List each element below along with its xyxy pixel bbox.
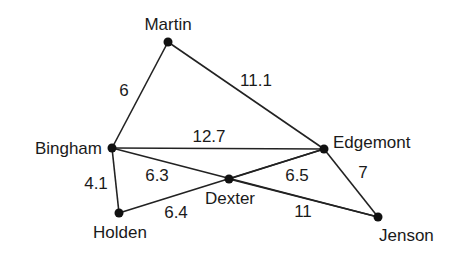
edge-edgemont-jenson bbox=[324, 149, 378, 217]
edge-dexter-edgemont bbox=[229, 149, 324, 179]
node-edgemont bbox=[320, 145, 329, 154]
node-label-holden: Holden bbox=[93, 223, 147, 242]
edge-weight-label: 11.1 bbox=[240, 71, 272, 90]
node-dexter bbox=[225, 175, 234, 184]
edge-weight-label: 12.7 bbox=[192, 127, 225, 146]
node-label-bingham: Bingham bbox=[35, 139, 102, 158]
node-martin bbox=[164, 38, 173, 47]
weighted-graph-diagram: 611.112.76.34.16.47116.5 MartinBinghamEd… bbox=[0, 0, 467, 257]
node-labels-group: MartinBinghamEdgemontDexterHoldenJenson bbox=[35, 15, 434, 245]
edge-weight-label: 6.4 bbox=[164, 203, 188, 222]
node-label-dexter: Dexter bbox=[205, 189, 255, 208]
edge-weight-label: 4.1 bbox=[84, 174, 108, 193]
node-bingham bbox=[108, 144, 117, 153]
node-jenson bbox=[374, 213, 383, 222]
edge-bingham-edgemont bbox=[112, 148, 324, 149]
node-label-jenson: Jenson bbox=[379, 226, 434, 245]
edge-weight-label: 6.5 bbox=[285, 166, 309, 185]
edge-weight-label: 7 bbox=[358, 163, 367, 182]
node-label-edgemont: Edgemont bbox=[333, 133, 411, 152]
node-holden bbox=[115, 209, 124, 218]
edge-bingham-holden bbox=[112, 148, 119, 213]
edge-weight-label: 6 bbox=[119, 81, 128, 100]
edge-weight-label: 6.3 bbox=[145, 166, 169, 185]
node-label-martin: Martin bbox=[144, 15, 191, 34]
edge-weight-label: 11 bbox=[294, 202, 312, 221]
edge-martin-edgemont bbox=[168, 42, 324, 149]
